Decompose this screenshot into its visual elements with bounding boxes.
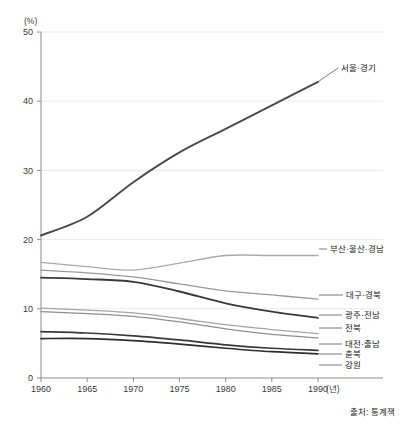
series-line-0	[41, 82, 318, 236]
leader-line-seoul	[318, 68, 338, 82]
y-tick-label: 30	[23, 166, 33, 176]
chart-container: 01020304050 1960196519701975198019851990…	[0, 0, 403, 437]
series-line-2	[41, 270, 318, 299]
x-tick-label: 1965	[77, 384, 97, 394]
series-line-1	[41, 255, 318, 270]
y-axis-unit-label: (%)	[24, 16, 37, 26]
series-label-5: 대전·출남	[345, 339, 380, 349]
series-line-5	[41, 312, 318, 338]
axes	[41, 32, 383, 378]
x-tick-label: 1970	[123, 384, 143, 394]
series-label-4: 전북	[345, 323, 361, 333]
series-label-0: 서울·경기	[341, 63, 376, 73]
series-labels: 서울·경기부산·울산·경남대구·경북광주·전남전북대전·출남춛북강원	[330, 63, 384, 370]
series-label-3: 광주·전남	[345, 310, 380, 320]
series-label-6: 춛북	[345, 349, 361, 359]
y-tick-label: 50	[23, 27, 33, 37]
x-axis-unit-label: (년)	[326, 384, 340, 394]
line-chart: 01020304050 1960196519701975198019851990…	[0, 0, 403, 437]
x-tick-label: 1990	[308, 384, 328, 394]
x-tick-label: 1960	[31, 384, 51, 394]
series-label-2: 대구·경북	[346, 290, 381, 300]
series-lines	[41, 82, 318, 354]
y-tick-label: 20	[23, 235, 33, 245]
y-tick-label: 10	[23, 304, 33, 314]
leader-lines	[318, 68, 343, 365]
x-tick-label: 1980	[216, 384, 236, 394]
x-tick-label: 1985	[262, 384, 282, 394]
y-tick-label: 40	[23, 96, 33, 106]
source-note: 출처: 통계잭	[350, 407, 395, 417]
series-label-1: 부산·울산·경남	[330, 244, 384, 254]
y-axis-ticks: 01020304050	[23, 27, 41, 383]
series-label-7: 강원	[345, 360, 361, 370]
x-axis-ticks: 1960196519701975198019851990	[31, 378, 328, 394]
y-tick-label: 0	[28, 373, 33, 383]
x-tick-label: 1975	[169, 384, 189, 394]
